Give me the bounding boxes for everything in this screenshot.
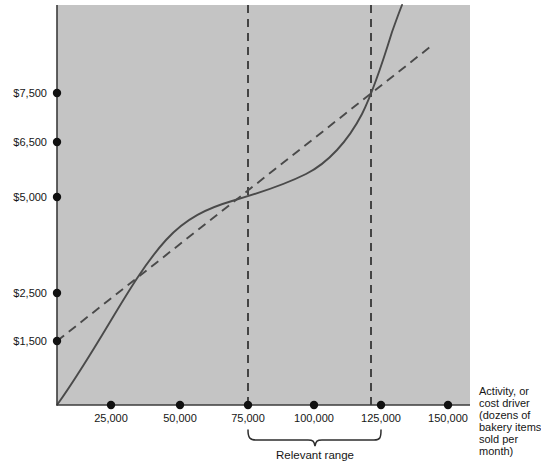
y-tick-dot-1500 xyxy=(53,337,61,345)
x-tick-label-150000: 150,000 xyxy=(428,412,468,424)
y-tick-dot-5000 xyxy=(53,193,61,201)
y-tick-label-2500: $2,500 xyxy=(13,287,47,299)
x-axis-caption-line-2: cost driver xyxy=(479,397,530,409)
x-axis-caption-line-6: month) xyxy=(479,445,513,457)
y-tick-label-1500: $1,500 xyxy=(13,335,47,347)
y-tick-dot-7500 xyxy=(53,89,61,97)
y-tick-label-6500: $6,500 xyxy=(13,136,47,148)
x-tick-dot-50000 xyxy=(176,401,184,409)
relevant-range-brace xyxy=(248,430,381,446)
x-tick-label-75000: 75,000 xyxy=(231,412,265,424)
x-tick-label-100000: 100,000 xyxy=(294,412,334,424)
x-tick-dot-75000 xyxy=(244,401,252,409)
x-tick-label-125000: 125,000 xyxy=(361,412,401,424)
y-tick-dot-6500 xyxy=(53,138,61,146)
x-tick-dot-25000 xyxy=(107,401,115,409)
x-tick-dot-100000 xyxy=(310,401,318,409)
y-tick-label-7500: $7,500 xyxy=(13,87,47,99)
y-tick-label-5000: $5,000 xyxy=(13,191,47,203)
chart-canvas: $7,500 $6,500 $5,000 $2,500 $1,500 25,00… xyxy=(0,0,541,463)
x-tick-dot-150000 xyxy=(444,401,452,409)
relevant-range-label: Relevant range xyxy=(276,449,354,461)
x-tick-label-25000: 25,000 xyxy=(94,412,128,424)
x-axis-caption-line-1: Activity, or xyxy=(479,385,529,397)
x-tick-label-50000: 50,000 xyxy=(163,412,197,424)
x-axis-caption-line-4: bakery items xyxy=(479,421,541,433)
plot-background xyxy=(57,5,470,405)
y-tick-dot-2500 xyxy=(53,289,61,297)
x-tick-dot-125000 xyxy=(377,401,385,409)
x-axis-caption-line-3: (dozens of xyxy=(479,409,531,421)
x-axis-caption-line-5: sold per xyxy=(479,433,518,445)
cost-behavior-chart: $7,500 $6,500 $5,000 $2,500 $1,500 25,00… xyxy=(0,0,541,463)
